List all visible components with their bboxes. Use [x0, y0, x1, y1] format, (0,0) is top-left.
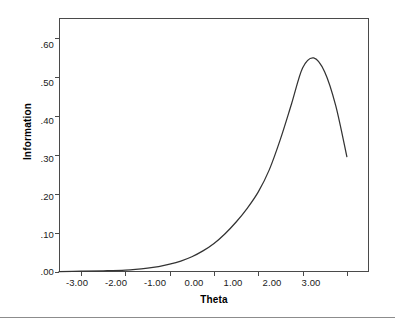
y-tick-label-00: .00 — [10, 267, 54, 277]
item-information-chart: .60 .50 .40 .30 .20 .10 .00 -3.00 -2.00 … — [0, 0, 395, 329]
x-axis-title: Theta — [59, 294, 369, 305]
footer-divider — [0, 317, 395, 318]
y-tick-label-60: .60 — [10, 40, 54, 50]
x-tick-label-3: 3.00 — [286, 277, 336, 288]
y-tick-label-20: .20 — [10, 192, 54, 202]
y-axis-title: Information — [22, 72, 33, 192]
plot-area-frame — [59, 18, 369, 272]
y-tick-label-10: .10 — [10, 230, 54, 240]
